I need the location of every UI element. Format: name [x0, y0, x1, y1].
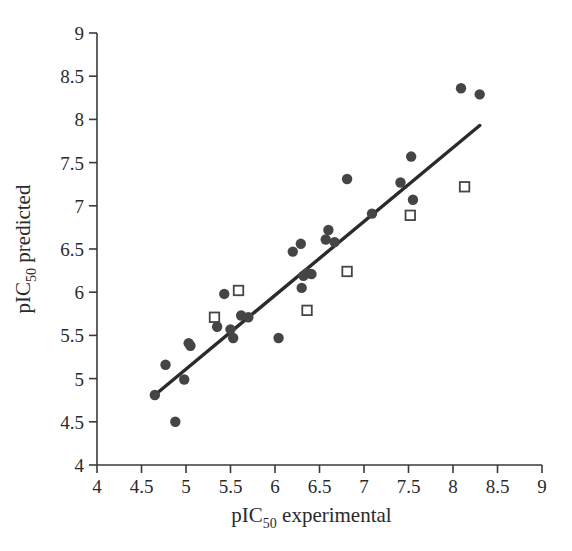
- data-point-circle: [179, 374, 189, 384]
- regression-trend-line: [155, 125, 480, 395]
- x-tick-label: 5: [181, 476, 191, 497]
- x-tick-label: 9: [537, 476, 547, 497]
- data-point-circle: [406, 151, 416, 161]
- data-point-circle: [323, 225, 333, 235]
- y-axis-title-text: pIC50 predicted: [11, 184, 39, 313]
- y-tick-label: 5.5: [60, 325, 84, 346]
- y-tick-label: 7.5: [60, 153, 84, 174]
- data-point-circle: [273, 333, 283, 343]
- data-point-circle: [212, 322, 222, 332]
- x-tick-label: 5.5: [219, 476, 243, 497]
- x-axis-ticks: [97, 465, 542, 473]
- y-tick-label: 8: [75, 109, 85, 130]
- y-axis-title: pIC50 predicted: [11, 184, 39, 313]
- data-point-circle: [185, 341, 195, 351]
- x-tick-label: 7.5: [397, 476, 421, 497]
- y-tick-label: 4.5: [60, 412, 84, 433]
- x-tick-label: 4: [92, 476, 102, 497]
- x-tick-label: 4.5: [130, 476, 154, 497]
- data-point-square: [234, 286, 244, 296]
- data-point-circle: [296, 239, 306, 249]
- data-point-circle: [475, 89, 485, 99]
- data-point-circle: [367, 208, 377, 218]
- y-axis-ticks: [89, 33, 97, 465]
- y-tick-label: 5: [75, 369, 85, 390]
- y-tick-label: 4: [75, 455, 85, 476]
- training-set-markers: [150, 83, 485, 427]
- data-point-square: [342, 267, 352, 277]
- y-tick-label: 6: [75, 282, 85, 303]
- data-point-circle: [342, 174, 352, 184]
- data-point-circle: [321, 234, 331, 244]
- data-point-circle: [150, 390, 160, 400]
- x-tick-label: 7: [359, 476, 369, 497]
- data-point-square: [406, 211, 416, 221]
- data-point-circle: [228, 333, 238, 343]
- x-tick-label: 6: [270, 476, 280, 497]
- scatter-plot-figure: 44.555.566.577.588.59 44.555.566.577.588…: [0, 0, 572, 551]
- data-point-circle: [395, 177, 405, 187]
- data-point-circle: [297, 283, 307, 293]
- x-tick-label: 8.5: [486, 476, 510, 497]
- y-axis-tick-labels: 44.555.566.577.588.59: [60, 23, 84, 476]
- plot-canvas: 44.555.566.577.588.59 44.555.566.577.588…: [0, 0, 572, 551]
- data-point-circle: [329, 237, 339, 247]
- y-tick-label: 9: [75, 23, 85, 44]
- y-tick-label: 8.5: [60, 66, 84, 87]
- x-axis-tick-labels: 44.555.566.577.588.59: [92, 476, 547, 497]
- data-point-circle: [243, 312, 253, 322]
- x-tick-label: 8: [448, 476, 458, 497]
- data-point-circle: [456, 83, 466, 93]
- x-tick-label: 6.5: [308, 476, 332, 497]
- data-point-square: [302, 306, 312, 316]
- data-point-circle: [408, 195, 418, 205]
- data-point-circle: [160, 360, 170, 370]
- data-point-square: [460, 182, 470, 192]
- test-set-markers: [210, 182, 470, 322]
- y-tick-label: 7: [75, 196, 85, 217]
- x-axis-title: pIC50 experimental: [231, 503, 392, 531]
- y-tick-label: 6.5: [60, 239, 84, 260]
- data-point-square: [210, 313, 220, 323]
- data-point-circle: [288, 246, 298, 256]
- data-point-circle: [219, 289, 229, 299]
- data-point-circle: [170, 417, 180, 427]
- data-point-circle: [306, 269, 316, 279]
